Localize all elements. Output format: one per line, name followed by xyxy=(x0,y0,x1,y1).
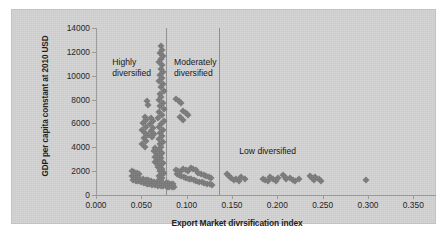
y-tick-mark xyxy=(92,123,96,124)
region-divider-line xyxy=(166,28,167,195)
x-tick-label: 0.100 xyxy=(176,200,197,210)
y-tick-mark xyxy=(92,100,96,101)
scatter-point xyxy=(178,100,185,107)
chart-card: GDP per capita constant at 2010 USD Expo… xyxy=(11,9,436,224)
y-tick-mark xyxy=(92,171,96,172)
y-tick-label: 8000 xyxy=(71,95,90,105)
scatter-point xyxy=(179,116,186,123)
scatter-point xyxy=(185,112,192,119)
x-tick-label: 0.350 xyxy=(403,200,424,210)
x-tick-label: 0.000 xyxy=(86,200,107,210)
y-tick-mark xyxy=(92,28,96,29)
x-axis-line xyxy=(96,195,436,196)
x-tick-mark xyxy=(413,195,414,199)
region-annotation-label: Highly diversified xyxy=(112,57,151,80)
scatter-point xyxy=(296,175,303,182)
x-tick-mark xyxy=(323,195,324,199)
scatter-point xyxy=(317,177,324,184)
y-tick-label: 12000 xyxy=(67,47,90,57)
x-tick-mark xyxy=(232,195,233,199)
region-divider-line xyxy=(219,28,220,195)
x-tick-label: 0.150 xyxy=(222,200,243,210)
x-tick-label: 0.050 xyxy=(131,200,152,210)
x-tick-mark xyxy=(141,195,142,199)
y-axis-line xyxy=(96,28,97,195)
region-annotation-label: Low diversified xyxy=(239,146,296,158)
x-axis-title: Export Market divrsification index xyxy=(72,218,402,228)
scatter-point xyxy=(363,176,370,183)
scatter-point xyxy=(241,176,248,183)
y-tick-label: 14000 xyxy=(67,23,90,33)
y-tick-label: 10000 xyxy=(67,71,90,81)
region-annotation-label: Moderately diversified xyxy=(174,57,217,80)
plot-area: 02000400060008000100001200014000 0.0000.… xyxy=(96,28,436,195)
y-tick-mark xyxy=(92,147,96,148)
x-tick-mark xyxy=(277,195,278,199)
y-axis-title: GDP per capita constant at 2010 USD xyxy=(39,22,53,190)
y-tick-mark xyxy=(92,76,96,77)
x-tick-label: 0.200 xyxy=(267,200,288,210)
scatter-point xyxy=(142,143,149,150)
y-tick-label: 0 xyxy=(85,190,90,200)
x-tick-mark xyxy=(187,195,188,199)
screenshot-root: GDP per capita constant at 2010 USD Expo… xyxy=(0,0,448,244)
x-tick-mark xyxy=(96,195,97,199)
y-tick-mark xyxy=(92,52,96,53)
x-tick-mark xyxy=(368,195,369,199)
y-tick-label: 4000 xyxy=(71,142,90,152)
y-tick-label: 2000 xyxy=(71,166,90,176)
x-tick-label: 0.300 xyxy=(358,200,379,210)
x-tick-label: 0.250 xyxy=(312,200,333,210)
y-tick-label: 6000 xyxy=(71,118,90,128)
